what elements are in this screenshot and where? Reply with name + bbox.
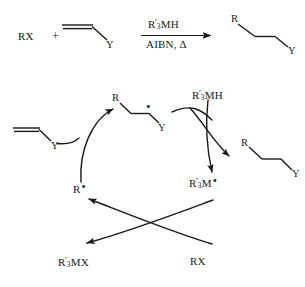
- carbon-radical-label: R•: [73, 180, 86, 195]
- alkene-reactant-structure: [62, 25, 107, 40]
- metal-radical-rest: M: [202, 177, 212, 189]
- metal-halide-rest: MX: [71, 256, 89, 268]
- overall-product-structure: [238, 24, 288, 47]
- metal-hydride-rest: MH: [205, 89, 223, 101]
- reagent-rest: MH: [161, 18, 179, 30]
- reactant-rx-label: RX: [18, 30, 34, 42]
- metal-hydride-label: R′3MH: [192, 88, 223, 102]
- cycle-arrow-to-product: [190, 108, 229, 156]
- cycle-arrow-halogen-transfer: [87, 200, 213, 243]
- alkene-y-label: Y: [106, 39, 114, 50]
- carbon-radical-r: R: [73, 183, 81, 195]
- cycle-arrow-addition: [81, 109, 113, 182]
- conditions-below-arrow: AIBN, Δ: [146, 38, 187, 50]
- alkene-entry-stroke: [57, 138, 79, 144]
- cycle-product-structure: [249, 147, 292, 170]
- cycle-product-y-label: Y: [292, 168, 300, 179]
- metal-radical-dot: •: [213, 174, 217, 188]
- product-r-label: R: [231, 13, 238, 24]
- adduct-radical-structure: [120, 103, 159, 123]
- cycle-alkene-structure: [13, 128, 51, 141]
- catalytic-cycle-drawing: [13, 100, 292, 244]
- adduct-r-label: R: [112, 92, 119, 103]
- cycle-rx-label: RX: [190, 255, 206, 267]
- metal-radical-label: R′3M•: [189, 174, 217, 190]
- product-y-label: Y: [288, 45, 296, 56]
- plus-sign: +: [52, 29, 59, 44]
- metal-halide-label: R′3MX: [58, 255, 89, 269]
- adduct-radical-dot: •: [146, 99, 151, 115]
- cycle-product-r-label: R: [241, 137, 248, 148]
- reagent-above-arrow: R′3MH: [148, 17, 179, 31]
- reaction-scheme-figure: RX + Y R′3MH AIBN, Δ R Y Y R • Y R• R′3M…: [0, 0, 305, 287]
- cycle-alkene-y-label: Y: [51, 140, 59, 151]
- carbon-radical-dot: •: [82, 180, 86, 194]
- adduct-y-label: Y: [158, 122, 166, 133]
